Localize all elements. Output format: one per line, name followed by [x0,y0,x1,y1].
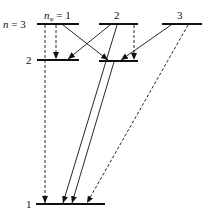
energy-levels [36,24,202,204]
transition-solid-arrow [63,25,117,203]
label-n3: n = 3 [3,18,26,30]
transition-solid-arrow [121,25,171,60]
transitions [45,25,188,203]
label-nphi-3: 3 [177,9,183,21]
transition-solid-arrow [68,25,110,59]
label-nphi-2: 2 [114,9,120,21]
label-n1: 1 [26,198,32,210]
label-n2: 2 [26,54,32,66]
transition-dashed-arrow [87,25,188,203]
transition-solid-arrow [72,62,114,203]
label-nphi-1: nφ = 1 [44,9,71,23]
energy-level-diagram: n = 3 nφ = 1 2 3 2 1 [0,0,216,217]
transition-solid-arrow [63,25,108,60]
